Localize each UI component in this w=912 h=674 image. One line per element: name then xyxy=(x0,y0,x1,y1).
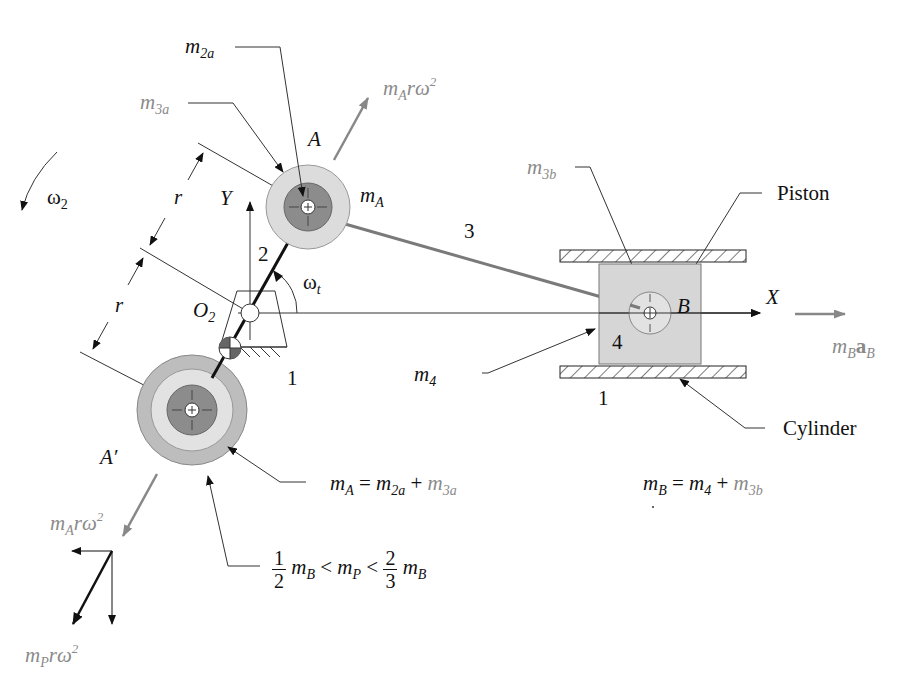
label-m3a: m3a xyxy=(140,92,169,117)
label-ground-1-right: 1 xyxy=(598,388,609,409)
label-link-4: 4 xyxy=(612,332,623,353)
label-mP-force: mPrω2 xyxy=(25,642,78,670)
label-omega2: ω2 xyxy=(47,187,68,212)
label-link-2: 2 xyxy=(258,244,269,265)
label-axis-Y: Y xyxy=(220,188,232,209)
diagram-canvas xyxy=(0,0,912,674)
leader-m3a xyxy=(188,103,283,172)
leader-cylinder xyxy=(680,379,765,428)
label-mA: mA xyxy=(360,185,384,210)
label-r-upper: r xyxy=(174,187,182,208)
angle-arc xyxy=(277,273,297,313)
label-omega-t: ωt xyxy=(303,272,321,297)
label-O2: O2 xyxy=(193,300,215,325)
center-of-mass-icon xyxy=(219,337,241,359)
cylinder-wall-bottom xyxy=(560,366,746,378)
label-mA-force-top: mArω2 xyxy=(383,75,436,103)
label-ground-1-left: 1 xyxy=(287,368,298,389)
label-point-A-prime: A′ xyxy=(100,447,117,468)
label-m3b: m3b xyxy=(527,157,556,182)
label-m2a: m2a xyxy=(185,36,214,61)
label-piston: Piston xyxy=(777,183,830,204)
equation-mA: mA = m2a + m3a xyxy=(330,473,457,498)
ground-hatch xyxy=(240,347,280,357)
dim-r-upper xyxy=(188,153,203,180)
label-r-lower: r xyxy=(115,295,123,316)
equation-mP-range: 12 mB < mP < 23 mB xyxy=(272,547,426,592)
label-mB-aB: mBaB xyxy=(832,336,875,361)
force-arrow-mA-bottom xyxy=(123,474,157,536)
label-mA-force-bottom: mArω2 xyxy=(50,510,103,538)
label-point-A: A xyxy=(308,129,321,150)
equation-mB: mB = m4 + m3b xyxy=(643,473,763,498)
label-m4: m4 xyxy=(414,364,436,389)
force-arrow-mP xyxy=(73,551,112,624)
label-point-B: B xyxy=(677,296,690,317)
force-arrow-mA-top xyxy=(334,98,368,160)
label-axis-X: X xyxy=(766,287,779,308)
cylinder-wall-top xyxy=(560,250,746,262)
label-cylinder: Cylinder xyxy=(783,418,857,439)
connecting-rod xyxy=(338,222,640,308)
leader-mA-eq xyxy=(228,447,306,482)
dim-r-lower xyxy=(128,258,143,285)
pivot-O2 xyxy=(241,304,259,322)
label-link-3: 3 xyxy=(464,221,475,242)
leader-mP xyxy=(208,476,260,566)
